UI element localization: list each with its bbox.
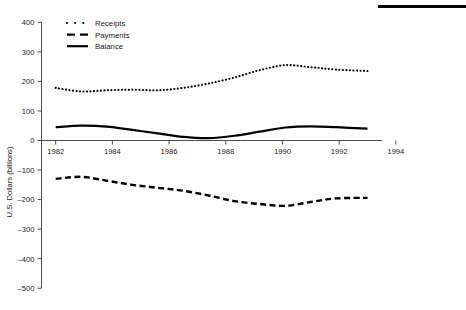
- y-axis-ticks: [38, 22, 42, 288]
- top-horizontal-rule: [378, 5, 466, 8]
- series-line-balance: [56, 126, 368, 138]
- x-tick-label: 1986: [161, 147, 178, 156]
- series-line-payments: [56, 177, 368, 206]
- y-tick-label: –100: [18, 166, 35, 175]
- y-tick-label: 400: [22, 18, 35, 27]
- chart-plot-area: 4003002001000–100–200–300–400–500 198219…: [0, 0, 466, 310]
- y-tick-label: 100: [22, 107, 35, 116]
- x-tick-label: 1990: [274, 147, 291, 156]
- x-axis-ticks: [56, 141, 396, 145]
- y-tick-label: –200: [18, 195, 35, 204]
- x-tick-label: 1994: [387, 147, 404, 156]
- data-series-group: [56, 65, 368, 206]
- x-tick-label: 1992: [331, 147, 348, 156]
- y-tick-label: –400: [18, 255, 35, 264]
- legend-label-receipts: Receipts: [95, 19, 125, 28]
- x-tick-label: 1982: [47, 147, 64, 156]
- x-tick-label: 1988: [217, 147, 234, 156]
- legend-label-balance: Balance: [95, 42, 123, 51]
- chart-figure: 4003002001000–100–200–300–400–500 198219…: [0, 0, 466, 310]
- legend-label-payments: Payments: [95, 31, 130, 40]
- y-axis-title: U.S. Dollars (billions): [5, 146, 14, 217]
- y-tick-label: 300: [22, 48, 35, 57]
- x-axis-tick-labels: 1982198419861988199019921994: [47, 147, 404, 156]
- y-axis-tick-labels: 4003002001000–100–200–300–400–500: [18, 18, 35, 293]
- y-tick-label: 0: [30, 136, 34, 145]
- chart-legend: ReceiptsPaymentsBalance: [67, 19, 130, 51]
- y-tick-label: –500: [18, 284, 35, 293]
- y-tick-label: –300: [18, 225, 35, 234]
- series-line-receipts: [56, 65, 368, 91]
- y-tick-label: 200: [22, 77, 35, 86]
- x-tick-label: 1984: [104, 147, 121, 156]
